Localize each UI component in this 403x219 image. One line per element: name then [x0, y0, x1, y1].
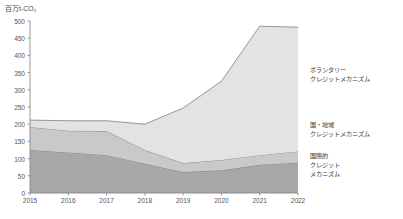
series-label-line: 国・地域 — [310, 121, 370, 130]
series-label-line: クレジット — [310, 161, 340, 170]
series-label-1: 国際的クレジットメカニズム — [310, 152, 340, 179]
series-label-line: クレジットメカニズム — [310, 75, 370, 84]
x-axis-tick-label: 2022 — [283, 197, 313, 204]
x-axis-tick-label: 2015 — [15, 197, 45, 204]
x-axis-tick-label: 2020 — [206, 197, 236, 204]
x-axis-tick-label: 2021 — [245, 197, 275, 204]
series-label-line: メカニズム — [310, 170, 340, 179]
x-axis-tick-label: 2019 — [168, 197, 198, 204]
y-axis-tick-label: 300 — [3, 86, 25, 93]
y-axis-tick-label: 200 — [3, 121, 25, 128]
y-axis-tick-label: 0 — [3, 190, 25, 197]
series-label-2: 国・地域クレジットメカニズム — [310, 121, 370, 139]
chart-plot-area — [0, 0, 403, 219]
series-label-line: ボランタリー — [310, 66, 370, 75]
stacked-area-chart: 百万t-CO₂ 050100150200250300350400450500 2… — [0, 0, 403, 219]
y-axis-tick-label: 50 — [3, 172, 25, 179]
series-label-line: 国際的 — [310, 152, 340, 161]
y-axis-tick-label: 100 — [3, 155, 25, 162]
series-label-line: クレジットメカニズム — [310, 130, 370, 139]
x-axis-tick-label: 2018 — [130, 197, 160, 204]
y-axis-tick-label: 400 — [3, 52, 25, 59]
y-axis-tick-label: 250 — [3, 104, 25, 111]
y-axis-tick-label: 500 — [3, 18, 25, 25]
y-axis-tick-label: 150 — [3, 138, 25, 145]
x-axis-tick-label: 2016 — [53, 197, 83, 204]
series-label-3: ボランタリークレジットメカニズム — [310, 66, 370, 84]
y-axis-tick-label: 450 — [3, 35, 25, 42]
y-axis-tick-label: 350 — [3, 69, 25, 76]
x-axis-tick-label: 2017 — [92, 197, 122, 204]
